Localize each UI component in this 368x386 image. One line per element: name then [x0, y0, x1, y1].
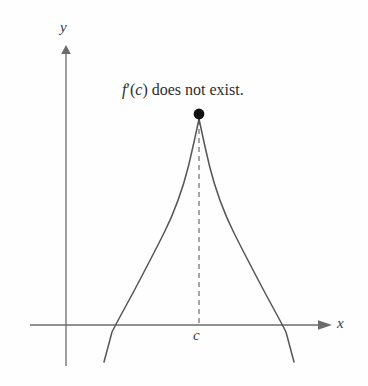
derivative-annotation: f′(c) does not exist.	[122, 81, 244, 99]
x-axis-arrowhead-icon	[318, 320, 332, 330]
x-axis-label: x	[337, 316, 344, 331]
x-axis-tick-label-c: c	[193, 328, 200, 343]
cusp-graph-figure: f′(c) does not exist. y x c	[0, 0, 368, 386]
y-axis-arrowhead-icon	[61, 45, 71, 54]
cusp-point-marker	[194, 109, 205, 120]
annotation-predicate: does not exist.	[148, 81, 244, 98]
graph-canvas	[0, 0, 368, 386]
y-axis-label: y	[60, 20, 67, 35]
